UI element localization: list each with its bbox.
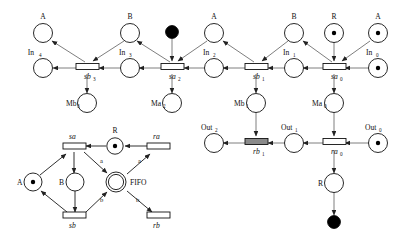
place-Ma0-sub: 0: [324, 103, 327, 109]
place-Mb1-sub: 1: [246, 103, 249, 109]
transition-rb[interactable]: [147, 212, 170, 218]
place-FIFO-label: FIFO: [130, 178, 147, 187]
place-Ma0[interactable]: [325, 94, 344, 113]
transition-sa2-label: sa: [169, 72, 176, 81]
place-A-folded-label: A: [17, 178, 23, 187]
place-In2-label: In: [203, 48, 210, 57]
place-Out0-label: Out: [365, 123, 377, 132]
place-A2-label: A: [211, 12, 217, 21]
place-Out2-label: Out: [201, 123, 213, 132]
place-R-bottom[interactable]: [325, 174, 344, 193]
transition-sa0-label: sa: [331, 72, 338, 81]
place-A4[interactable]: [34, 24, 53, 43]
transition-ra0-sub: 0: [340, 151, 343, 157]
token-A0: [376, 31, 380, 35]
place-black-sink[interactable]: [328, 216, 341, 229]
place-Mb1-label: Mb: [234, 99, 245, 108]
place-In2[interactable]: [205, 59, 224, 78]
place-Out0-sub: 0: [379, 127, 382, 133]
transition-rb1-label: rb: [253, 147, 260, 156]
transition-sa-label: sa: [69, 132, 76, 141]
transition-sb-label: sb: [69, 221, 76, 230]
transition-ra-label: ra: [153, 132, 160, 141]
transition-sb[interactable]: [63, 212, 86, 218]
transition-ra0[interactable]: [323, 139, 346, 145]
transition-sb1[interactable]: [245, 64, 268, 70]
place-Out2-sub: 2: [215, 127, 218, 133]
place-In3-sub: 3: [129, 52, 132, 58]
place-B3-label: B: [127, 12, 132, 21]
transition-ra0-label: ra: [331, 147, 338, 156]
arc-label-a-send: a: [100, 157, 103, 164]
transition-sa0[interactable]: [323, 64, 346, 70]
transition-sa2[interactable]: [161, 64, 184, 70]
transition-sa0-sub: 0: [340, 76, 343, 82]
place-In4-sub: 4: [39, 52, 42, 58]
place-FIFO[interactable]: [106, 172, 126, 192]
transition-rb1[interactable]: [245, 139, 268, 145]
place-Ma0-label: Ma: [312, 99, 323, 108]
transition-rb-label: rb: [153, 221, 160, 230]
place-In3[interactable]: [121, 59, 140, 78]
token-A-folded: [31, 180, 35, 184]
place-B-folded[interactable]: [66, 173, 84, 191]
token-Out0: [376, 141, 380, 145]
place-In0-label: In: [366, 48, 373, 57]
place-Mb1[interactable]: [247, 94, 266, 113]
place-In4-label: In: [28, 48, 35, 57]
token-R-folded: [113, 144, 117, 148]
place-black-source[interactable]: [166, 26, 179, 39]
place-A2[interactable]: [205, 24, 224, 43]
transition-rb1-sub: 1: [262, 151, 265, 157]
place-Ma2-label: Ma: [151, 99, 162, 108]
place-Mb3-sub: 3: [77, 103, 80, 109]
place-In1-label: In: [283, 48, 290, 57]
place-In1-sub: 1: [293, 52, 296, 58]
place-B-folded-label: B: [59, 178, 64, 187]
place-Mb3[interactable]: [78, 94, 97, 113]
place-B3[interactable]: [121, 24, 140, 43]
place-Out2[interactable]: [205, 134, 224, 153]
transition-sb1-sub: 1: [262, 76, 265, 82]
place-Out1-sub: 1: [295, 127, 298, 133]
place-B1-label: B: [291, 12, 296, 21]
place-In3-label: In: [119, 48, 126, 57]
arc-label-a-receive: a: [138, 157, 141, 164]
transition-sa[interactable]: [63, 143, 86, 149]
place-Mb3-label: Mb: [66, 99, 77, 108]
transition-sa2-sub: 2: [178, 76, 181, 82]
place-A4-label: A: [40, 12, 46, 21]
place-In2-sub: 2: [213, 52, 216, 58]
place-Out1[interactable]: [285, 134, 304, 153]
token-In0: [376, 66, 380, 70]
place-Out1-label: Out: [281, 123, 293, 132]
transition-sb3-sub: 3: [93, 76, 96, 82]
place-A0-label: A: [375, 12, 381, 21]
place-Ma2-sub: 2: [163, 103, 166, 109]
place-B1[interactable]: [285, 24, 304, 43]
transition-sb3[interactable]: [76, 64, 99, 70]
transition-sb1-label: sb: [253, 72, 260, 81]
place-In1[interactable]: [285, 59, 304, 78]
petri-net-figure: A In 4 sb 3 Mb 3 B In 3 sa 2 Ma 2 A In: [0, 0, 403, 244]
transition-ra[interactable]: [147, 143, 170, 149]
place-In0-sub: 0: [376, 52, 379, 58]
place-In4[interactable]: [34, 59, 53, 78]
token-R0: [332, 31, 336, 35]
transition-sb3-label: sb: [84, 72, 91, 81]
